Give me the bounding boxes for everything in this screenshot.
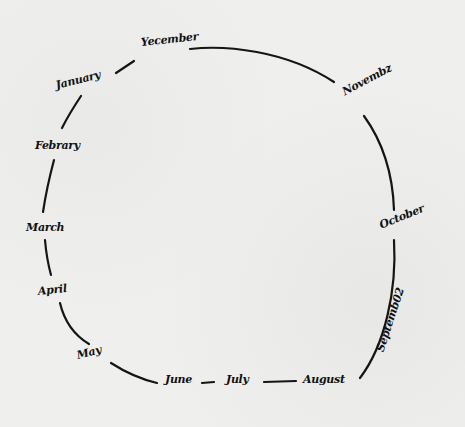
- node-july: July: [226, 373, 249, 386]
- edge-march-february: [43, 160, 54, 212]
- edge-may-april: [60, 303, 89, 344]
- edge-july-june: [202, 382, 214, 383]
- edge-november-october: [364, 116, 394, 210]
- edge-june-may: [111, 363, 157, 383]
- edge-august-july: [264, 381, 296, 382]
- node-august: August: [303, 373, 345, 386]
- node-february: Febrary: [35, 139, 80, 152]
- node-june: June: [165, 373, 192, 386]
- edge-february-january: [62, 96, 81, 128]
- edge-december-november: [190, 48, 334, 82]
- edge-april-march: [45, 240, 51, 275]
- node-march: March: [26, 221, 64, 234]
- edge-january-december: [116, 61, 134, 73]
